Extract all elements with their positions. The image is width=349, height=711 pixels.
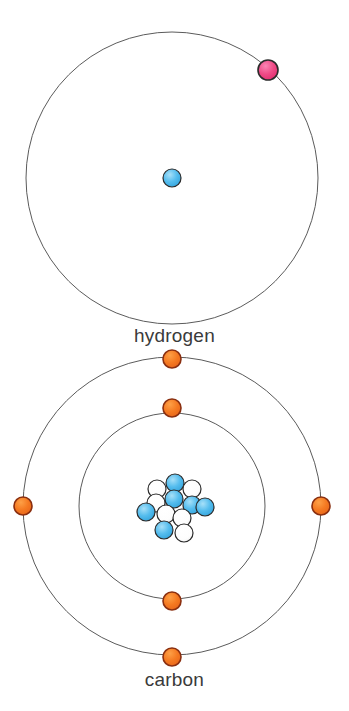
- hydrogen-label: hydrogen: [0, 325, 349, 347]
- atom-diagram-canvas: [0, 0, 349, 711]
- carbon-electron-shell1-2: [163, 592, 181, 610]
- carbon-proton: [137, 503, 155, 521]
- carbon-electron-shell2-4: [163, 648, 181, 666]
- carbon-neutron: [157, 505, 175, 523]
- carbon-neutron: [183, 480, 201, 498]
- hydrogen-atom-group: [26, 32, 318, 324]
- carbon-proton: [155, 521, 173, 539]
- carbon-electron-shell2-1: [163, 350, 181, 368]
- carbon-label: carbon: [0, 669, 349, 691]
- carbon-proton: [196, 498, 214, 516]
- atom-diagram: hydrogen carbon: [0, 0, 349, 711]
- carbon-electron-shell2-2: [14, 497, 32, 515]
- carbon-atom-group: [14, 350, 330, 666]
- hydrogen-proton: [163, 169, 181, 187]
- carbon-electron-shell2-3: [312, 497, 330, 515]
- carbon-proton: [166, 474, 184, 492]
- carbon-neutron: [175, 524, 193, 542]
- carbon-electron-shell1-1: [163, 399, 181, 417]
- hydrogen-electron-shell1-1: [258, 60, 278, 80]
